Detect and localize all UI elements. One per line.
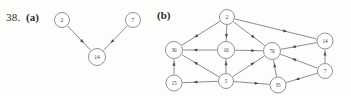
node-label: 70 (269, 48, 275, 54)
edge-arrowhead (324, 52, 327, 56)
graph-edge (225, 59, 228, 73)
graph-part-b: 230107014155357 (0, 0, 351, 96)
edge-layer (173, 19, 327, 85)
edge-line (281, 43, 317, 50)
graph-edge (173, 59, 176, 74)
node-label: 14 (322, 38, 328, 44)
node-label: 10 (223, 47, 229, 53)
edge-line (274, 60, 277, 77)
graph-node: 2 (220, 10, 235, 25)
edge-arrowhead (225, 34, 228, 38)
graph-node: 15 (166, 75, 182, 91)
edge-arrowhead (283, 29, 287, 32)
node-layer: 230107014155357 (166, 10, 334, 94)
edge-line (235, 50, 263, 51)
edge-arrowhead (292, 45, 296, 48)
edge-arrowhead (292, 59, 296, 62)
node-label: 30 (171, 47, 177, 53)
graph-edge (286, 73, 317, 82)
graph-edge (225, 25, 228, 41)
graph-edge (281, 43, 317, 50)
graph-edge (182, 55, 219, 77)
node-label: 7 (324, 68, 327, 74)
edge-arrowhead (173, 62, 176, 66)
node-label: 15 (171, 80, 177, 86)
graph-edge (281, 54, 318, 68)
edge-arrowhead (194, 34, 198, 37)
graph-node: 70 (264, 43, 281, 60)
node-label: 5 (225, 78, 228, 84)
edge-arrowhead (193, 81, 197, 84)
edge-arrowhead (295, 77, 299, 80)
edge-arrowhead (225, 61, 228, 65)
edge-line (286, 73, 317, 82)
graph-edge (183, 81, 218, 84)
node-label: 35 (275, 82, 281, 88)
graph-node: 30 (166, 42, 183, 59)
graph-edge (235, 49, 263, 52)
graph-node: 35 (270, 77, 286, 93)
graph-edge (234, 82, 269, 85)
figure-container: 38. (a) (b) 2714 230107014155357 (0, 0, 351, 96)
graph-edge (183, 49, 217, 52)
edge-arrowhead (250, 62, 254, 65)
graph-edge (273, 60, 276, 77)
graph-edge (324, 50, 327, 63)
graph-node: 7 (318, 64, 333, 79)
edge-arrowhead (193, 49, 197, 52)
edge-arrowhead (251, 49, 255, 52)
graph-edge (233, 56, 265, 77)
edge-line (281, 54, 318, 68)
graph-node: 10 (218, 42, 235, 59)
edge-arrowhead (194, 62, 198, 65)
edge-line (182, 21, 220, 45)
node-label: 2 (226, 14, 229, 20)
edge-line (182, 55, 219, 77)
edge-arrowhead (273, 63, 276, 67)
edge-line (233, 56, 265, 77)
graph-node: 5 (219, 74, 234, 89)
graph-node: 14 (317, 33, 333, 49)
edge-line (234, 82, 269, 85)
graph-edge (235, 19, 317, 39)
edge-line (183, 81, 218, 82)
graph-edge (182, 21, 220, 45)
edge-line (235, 19, 317, 39)
